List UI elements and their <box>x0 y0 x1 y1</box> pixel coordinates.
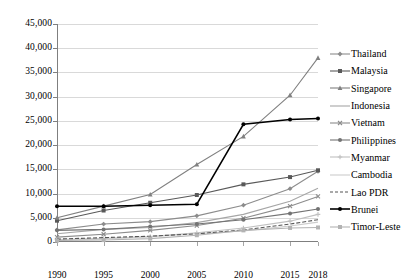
data-point-marker <box>101 222 106 227</box>
legend-item-vietnam[interactable]: Vietnam <box>330 114 414 131</box>
x-axis-tick-label: 2010 <box>223 270 263 278</box>
legend-label: Malaysia <box>350 65 388 76</box>
data-point-marker <box>288 219 293 224</box>
legend-marker-icon <box>330 100 350 112</box>
data-point-marker <box>148 192 153 197</box>
data-point-marker <box>241 203 246 208</box>
data-point-marker <box>338 138 342 142</box>
data-point-marker <box>316 168 320 172</box>
data-point-marker <box>148 203 152 207</box>
data-point-marker <box>55 239 59 243</box>
data-point-marker <box>55 228 59 232</box>
data-point-marker <box>316 207 320 211</box>
x-tick <box>197 242 198 246</box>
y-axis-tick-label: 25,000 <box>4 116 52 126</box>
legend-item-malaysia[interactable]: Malaysia <box>330 62 414 79</box>
series-line <box>57 58 318 218</box>
y-axis-tick-label: 30,000 <box>4 92 52 102</box>
x-tick <box>318 242 319 246</box>
data-point-marker <box>194 162 199 167</box>
y-axis-tick-label: 35,000 <box>4 67 52 77</box>
legend-label: Philippines <box>350 135 396 146</box>
series-brunei <box>55 116 320 208</box>
legend-label: Cambodia <box>350 169 392 180</box>
x-tick <box>104 242 105 246</box>
data-point-marker <box>241 228 245 232</box>
data-point-marker <box>316 55 321 60</box>
x-tick <box>57 242 58 246</box>
data-point-marker <box>316 212 321 217</box>
legend-label: Myanmar <box>350 152 390 163</box>
legend-item-philippines[interactable]: Philippines <box>330 131 414 148</box>
legend-item-cambodia[interactable]: Cambodia <box>330 166 414 183</box>
y-axis-tick-label: 15,000 <box>4 164 52 174</box>
data-point-marker <box>241 122 245 126</box>
data-point-marker <box>195 193 199 197</box>
legend-marker-icon <box>330 65 350 77</box>
legend-label: Thailand <box>350 48 387 59</box>
y-axis-tick-label: 45,000 <box>4 19 52 29</box>
data-point-marker <box>195 222 199 226</box>
data-point-marker <box>148 219 153 224</box>
data-point-marker <box>338 207 342 211</box>
legend-item-timor-leste[interactable]: Timor-Leste <box>330 218 414 235</box>
x-tick <box>290 242 291 246</box>
data-point-marker <box>316 116 320 120</box>
data-point-marker <box>102 209 106 213</box>
legend-label: Indonesia <box>350 100 390 111</box>
legend-label: Singapore <box>350 83 392 94</box>
legend-marker-icon <box>330 203 350 215</box>
y-axis-tick-label: 0 <box>4 237 52 247</box>
legend-item-lao-pdr[interactable]: Lao PDR <box>330 183 414 200</box>
data-point-marker <box>338 51 343 56</box>
y-axis-tick-label: 10,000 <box>4 189 52 199</box>
legend-label: Timor-Leste <box>350 221 400 232</box>
data-point-marker <box>102 204 106 208</box>
x-axis-tick-label: 2000 <box>130 270 170 278</box>
x-tick <box>243 242 244 246</box>
legend-item-singapore[interactable]: Singapore <box>330 80 414 97</box>
x-axis-tick-label: 2018 <box>298 270 338 278</box>
series-line <box>57 171 318 230</box>
y-axis-tick-label: 20,000 <box>4 140 52 150</box>
data-point-marker <box>195 233 199 237</box>
x-tick <box>150 242 151 246</box>
series-layer <box>57 24 318 242</box>
data-point-marker <box>55 204 59 208</box>
legend-label: Brunei <box>350 204 378 215</box>
legend-item-myanmar[interactable]: Myanmar <box>330 149 414 166</box>
legend-marker-icon <box>330 82 350 94</box>
plot-area: 1990199520002005201020152018 <box>57 24 318 242</box>
legend-marker-icon <box>330 48 350 60</box>
legend-item-brunei[interactable]: Brunei <box>330 201 414 218</box>
data-point-marker <box>338 155 343 160</box>
legend-marker-icon <box>330 169 350 181</box>
x-axis-tick-label: 1990 <box>37 270 77 278</box>
data-point-marker <box>148 224 152 228</box>
y-axis-tick-label: 40,000 <box>4 43 52 53</box>
y-axis-tick-label: 5,000 <box>4 213 52 223</box>
legend-marker-icon <box>330 117 350 129</box>
legend-marker-icon <box>330 221 350 233</box>
data-point-marker <box>102 238 106 242</box>
legend-marker-icon <box>330 186 350 198</box>
data-point-marker <box>195 202 199 206</box>
legend-label: Vietnam <box>350 117 385 128</box>
chart-legend: ThailandMalaysiaSingaporeIndonesiaVietna… <box>330 45 414 235</box>
data-point-marker <box>316 225 320 229</box>
data-point-marker <box>148 237 152 241</box>
legend-item-indonesia[interactable]: Indonesia <box>330 97 414 114</box>
data-point-marker <box>338 225 342 229</box>
data-point-marker <box>288 175 292 179</box>
x-axis-tick-label: 1995 <box>84 270 124 278</box>
series-singapore <box>55 55 321 219</box>
data-point-marker <box>194 213 199 218</box>
data-point-marker <box>241 218 245 222</box>
data-point-marker <box>288 211 292 215</box>
data-point-marker <box>102 227 106 231</box>
x-axis-tick-label: 2005 <box>177 270 217 278</box>
data-point-marker <box>241 182 245 186</box>
legend-marker-icon <box>330 151 350 163</box>
legend-item-thailand[interactable]: Thailand <box>330 45 414 62</box>
legend-label: Lao PDR <box>350 187 389 198</box>
